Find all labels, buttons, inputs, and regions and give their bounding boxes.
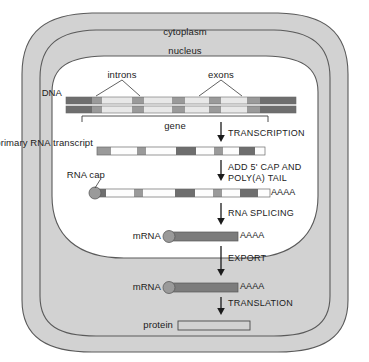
rna-cap-circle [89, 187, 101, 199]
dna-label: DNA [42, 88, 62, 98]
introns-label: introns [107, 70, 136, 80]
step-label-capping-line2: POLY(A) TAIL [228, 174, 287, 183]
rna-cap-label: RNA cap [67, 170, 105, 180]
mrna-cytoplasm-label: mRNA [133, 282, 161, 292]
polya-tail-mrna-cytoplasm-label: AAAA [240, 282, 264, 291]
polya-tail-capped-label: AAAA [271, 188, 295, 197]
mrna-nucleus-cap-circle [163, 231, 175, 243]
nucleus-envelope [52, 56, 318, 258]
mrna-cytoplasm-molecule [163, 282, 238, 294]
step-label-export: EXPORT [228, 254, 266, 263]
dna-strand-bottom [66, 106, 296, 113]
cytoplasm-label: cytoplasm [163, 27, 207, 37]
mrna-cytoplasm-cap-circle [163, 282, 175, 294]
protein-label: protein [143, 320, 173, 330]
polya-tail-mrna-nucleus-label: AAAA [240, 231, 264, 240]
gene-expression-diagram: cytoplasm nucleus introns exons DNA gene… [0, 0, 369, 362]
step-label-translation: TRANSLATION [228, 299, 293, 308]
step-label-splicing: RNA SPLICING [228, 209, 294, 218]
protein-bar [178, 321, 250, 330]
mrna-nucleus-molecule [163, 231, 238, 243]
primary-rna-transcript-molecule [97, 147, 265, 155]
primary-rna-transcript-label: primary RNA transcript [0, 138, 93, 148]
capped-transcript-molecule [89, 187, 270, 199]
gene-label: gene [164, 121, 186, 131]
step-label-transcription: TRANSCRIPTION [228, 129, 305, 138]
step-label-capping-line1: ADD 5' CAP AND [228, 163, 302, 172]
mrna-nucleus-label: mRNA [133, 231, 161, 241]
dna-strand-top [66, 97, 296, 104]
nucleus-label: nucleus [168, 46, 201, 56]
exons-label: exons [208, 70, 234, 80]
